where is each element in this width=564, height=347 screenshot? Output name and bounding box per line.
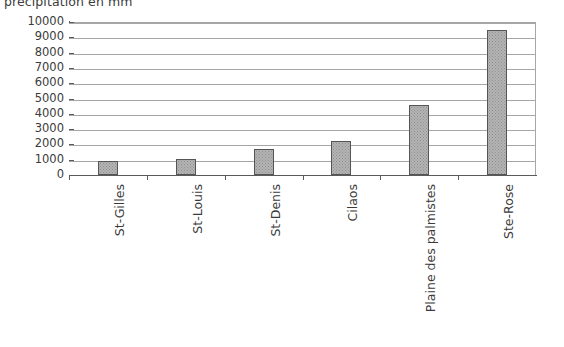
y-axis-tick-label: 5000 — [6, 93, 64, 105]
y-axis-tick-labels: 1000090008000700060005000400030002000100… — [4, 22, 64, 175]
gridline — [69, 54, 535, 55]
x-axis-category-label: St-Louis — [192, 184, 205, 234]
y-axis-tick-mark — [69, 160, 74, 161]
bar — [176, 159, 196, 175]
y-axis-tick-label: 9000 — [6, 31, 64, 43]
gridline — [69, 161, 535, 162]
y-axis-tick-label: 7000 — [6, 62, 64, 74]
y-axis-tick-label: 6000 — [6, 77, 64, 89]
y-axis-tick-mark — [69, 37, 74, 38]
gridline — [69, 23, 535, 24]
y-axis-tick-label: 2000 — [6, 138, 64, 150]
x-axis-category-label: Cilaos — [347, 184, 360, 222]
x-axis-tick-mark — [225, 175, 226, 180]
x-axis-category-label: Plaine des palmistes — [425, 184, 438, 312]
y-axis-tick-mark — [69, 144, 74, 145]
bar — [254, 149, 274, 175]
y-axis-tick-mark — [69, 68, 74, 69]
bar-chart: précipitation en mm 10000900080007000600… — [0, 0, 564, 347]
y-axis-tick-mark — [69, 129, 74, 130]
x-axis-tick-mark — [380, 175, 381, 180]
x-axis-category-label: Ste-Rose — [503, 184, 516, 239]
bar — [487, 30, 507, 175]
bar — [98, 161, 118, 175]
plot-area — [69, 22, 536, 175]
y-axis-tick-mark — [69, 114, 74, 115]
y-axis-tick-label: 8000 — [6, 47, 64, 59]
y-axis-tick-mark — [69, 83, 74, 84]
y-axis-tick-label: 10000 — [6, 16, 64, 28]
y-axis-tick-label: 0 — [6, 169, 64, 181]
chart-title: précipitation en mm — [4, 0, 133, 9]
bar — [409, 105, 429, 175]
x-axis-category-label: St-Denis — [270, 184, 283, 237]
x-axis-category-label: St-Gilles — [114, 184, 127, 236]
y-axis-tick-label: 3000 — [6, 123, 64, 135]
gridline — [69, 38, 535, 39]
y-axis-tick-mark — [69, 53, 74, 54]
gridline — [69, 130, 535, 131]
y-axis-tick-mark — [69, 99, 74, 100]
gridline — [69, 100, 535, 101]
bar — [331, 141, 351, 175]
x-axis-tick-mark — [147, 175, 148, 180]
x-axis-tick-mark — [69, 175, 70, 180]
gridline — [69, 145, 535, 146]
y-axis-tick-label: 4000 — [6, 108, 64, 120]
gridline — [69, 84, 535, 85]
y-axis-tick-mark — [69, 22, 74, 23]
gridline — [69, 69, 535, 70]
gridline — [69, 115, 535, 116]
y-axis-tick-label: 1000 — [6, 154, 64, 166]
x-axis-tick-mark — [458, 175, 459, 180]
x-axis-tick-mark — [303, 175, 304, 180]
